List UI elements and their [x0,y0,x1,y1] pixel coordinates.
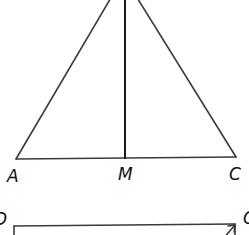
geometry-diagram: A M C D C [0,0,249,235]
label-m: M [118,164,133,184]
label-c-lower: C [243,208,249,228]
side-ab [16,0,112,159]
side-dc [14,224,235,226]
label-d: D [0,209,7,229]
label-a: A [6,166,19,186]
side-bc [136,0,236,157]
label-c: C [229,164,241,184]
diagram-canvas: A M C D C [0,0,249,235]
